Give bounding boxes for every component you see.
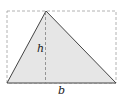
base-label: b [58,84,65,96]
triangle-area-diagram: h b [0,0,123,96]
triangle [7,11,116,83]
height-label: h [37,42,44,55]
